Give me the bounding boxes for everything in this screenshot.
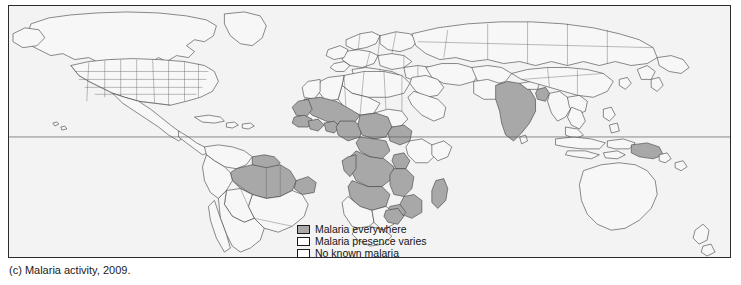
world-map[interactable]: .c{stroke:#3c3c3c;stroke-width:0.6;fill:… bbox=[9, 6, 730, 257]
map-frame: .c{stroke:#3c3c3c;stroke-width:0.6;fill:… bbox=[8, 5, 731, 258]
legend-swatch-varies bbox=[297, 237, 310, 246]
legend-label-varies: Malaria presence varies bbox=[315, 236, 426, 247]
legend-swatch-endemic bbox=[297, 225, 310, 234]
legend-label-endemic: Malaria everywhere bbox=[315, 224, 407, 235]
map-figure: .c{stroke:#3c3c3c;stroke-width:0.6;fill:… bbox=[0, 0, 741, 285]
figure-caption: (c) Malaria activity, 2009. bbox=[9, 264, 130, 276]
map-legend: Malaria everywhere Malaria presence vari… bbox=[297, 224, 426, 259]
legend-swatch-none bbox=[297, 249, 310, 258]
legend-label-none: No known malaria bbox=[315, 248, 399, 259]
legend-item-endemic[interactable]: Malaria everywhere bbox=[297, 224, 426, 235]
legend-item-varies[interactable]: Malaria presence varies bbox=[297, 236, 426, 247]
legend-item-none[interactable]: No known malaria bbox=[297, 248, 426, 259]
